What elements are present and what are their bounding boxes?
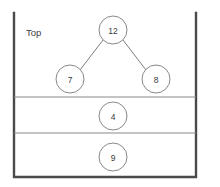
- node-value-8: 8: [154, 75, 159, 85]
- tree-edges: [80, 40, 146, 70]
- diagram-canvas: 127849 Top: [0, 0, 220, 187]
- diagram-labels: Top: [26, 27, 41, 38]
- node-value-4: 4: [111, 112, 116, 122]
- tree-node-12: 12: [99, 16, 127, 44]
- node-value-7: 7: [68, 75, 73, 85]
- node-value-9: 9: [111, 153, 116, 163]
- tree-node-4: 4: [99, 102, 127, 130]
- node-value-12: 12: [108, 26, 118, 36]
- tree-node-8: 8: [142, 65, 170, 93]
- tree-node-9: 9: [99, 143, 127, 171]
- stack-of-trees-diagram: 127849 Top: [0, 0, 220, 187]
- tree-node-7: 7: [56, 65, 84, 93]
- tree-edge-node-12-to-node-7: [80, 40, 103, 70]
- tree-nodes: 127849: [56, 16, 170, 171]
- top-label: Top: [26, 27, 41, 38]
- tree-edge-node-12-to-node-8: [123, 40, 146, 70]
